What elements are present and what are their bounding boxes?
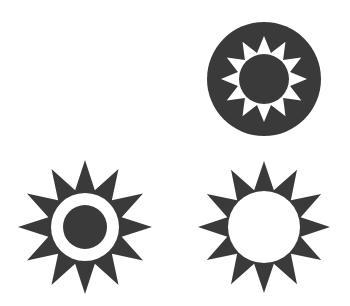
sun-open-icon — [198, 161, 330, 293]
icon-canvas — [0, 0, 350, 306]
sun-ring-icon — [18, 160, 152, 294]
sun-in-circle-icon — [207, 22, 321, 136]
